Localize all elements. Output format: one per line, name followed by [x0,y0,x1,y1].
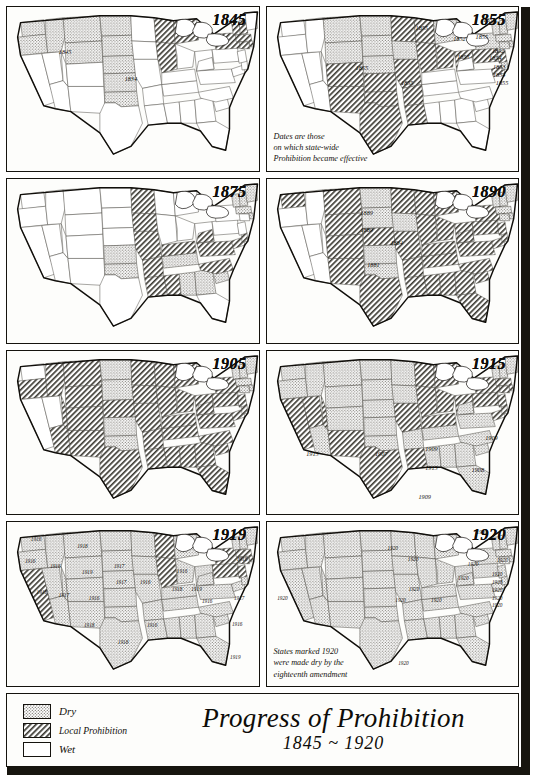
map-panel-1875[interactable]: 1875 [6,178,260,344]
legend-item-local-prohibition: Local Prohibition [23,721,185,740]
state-mt [323,359,362,386]
map-date-label: 1920 [492,587,503,593]
state-la [144,104,167,125]
map-panel-1890[interactable]: 1890 1889188918841881 [266,178,520,344]
state-sd [102,35,134,56]
map-date-label: 1920 [407,556,418,562]
map-date-label: 1916 [147,622,158,628]
state-nm [68,258,106,285]
map-date-label: 1889 [360,209,372,216]
state-ar [402,428,423,449]
map-body [277,355,517,497]
map-date-label: 1916 [237,556,248,562]
state-nj [237,565,247,579]
map-panel-1920[interactable]: 1920 19201920192019201920192019201920192… [266,521,520,687]
us-map-1875 [7,179,259,343]
map-panel-1919[interactable]: 1919 19161916191619181919191719181917191… [6,521,260,687]
state-nm [68,430,106,457]
legend-label-local-prohibition: Local Prohibition [59,725,127,736]
map-date-label: 1917 [59,592,70,598]
state-ia [132,384,158,402]
state-id [305,533,324,568]
map-panel-1905[interactable]: 1905 [6,350,260,516]
panel-year-1915: 1915 [472,355,506,373]
legend-title-bar: Dry Local Prohibition Wet Progress of Pr… [6,693,519,767]
us-map-1890: 1889188918841881 [267,179,519,343]
state-mt [323,16,362,43]
map-date-label: 1918 [118,639,129,645]
state-va [197,241,236,256]
map-panel-1855[interactable]: 1855 18551855185518511852185518521855185… [266,6,520,172]
map-date-label: 1917 [116,579,127,585]
state-co [326,406,364,430]
state-id [46,190,65,225]
state-mt [323,188,362,215]
state-fl [456,293,489,322]
state-id [46,361,65,396]
state-nj [237,221,247,235]
state-ks [363,73,396,92]
map-panel-1845[interactable]: 1845 18451834 [6,6,260,172]
state-mo [134,403,162,432]
state-mn [131,531,156,557]
state-sd [361,35,393,56]
state-al [439,100,456,123]
map-date-label: 1916 [31,536,42,542]
state-or [277,34,307,55]
state-al [179,100,196,123]
map-date-label: 1855 [401,79,413,86]
state-wi [154,190,175,216]
legend-label-dry: Dry [59,705,76,717]
panel-note-1920: States marked 1920 were made dry by the … [274,646,348,680]
state-sd [361,550,393,571]
map-date-label: 1920 [492,572,503,578]
map-body [18,184,258,326]
map-date-label: 1853 [492,63,504,70]
us-map-1905 [7,351,259,515]
map-panel-1915[interactable]: 1915 1915190719091915190919081909 [266,350,520,516]
map-date-label: 1855 [415,24,427,31]
state-nm [327,86,365,113]
map-date-label: 1845 [59,48,71,55]
state-ne [103,56,136,74]
state-ar [142,428,163,449]
state-ct [239,214,250,221]
legend-item-dry: Dry [23,702,185,721]
state-mo [393,403,421,432]
panel-year-1845: 1845 [213,11,247,29]
map-body [18,527,258,669]
state-ct [499,385,510,392]
map-date-label: 1884 [390,239,402,246]
state-ia [132,556,158,574]
state-nm [327,602,365,629]
state-ks [104,416,137,435]
state-fl [456,121,489,150]
state-fl [197,121,230,150]
state-tx [100,446,143,497]
map-date-label: 1920 [492,603,503,609]
state-mn [390,16,415,42]
state-in [435,387,454,412]
map-date-label: 1916 [25,558,36,564]
map-date-label: 1916 [232,621,243,627]
panel-note-1855: Dates are those on which state-wide Proh… [274,131,368,165]
state-fl [197,465,230,494]
state-ks [363,588,396,607]
state-ks [104,245,137,264]
legend-label-wet: Wet [59,743,75,755]
map-date-label: 1920 [467,561,478,567]
state-nm [327,258,365,285]
state-ar [142,85,163,106]
state-tx [359,275,402,326]
map-date-label: 1881 [367,261,379,268]
state-wi [154,18,175,44]
state-mt [63,16,102,43]
state-ct [239,385,250,392]
state-nm [68,86,106,113]
state-ar [402,85,423,106]
state-ia [391,213,417,231]
map-date-label: 1909 [418,493,430,500]
state-in [175,216,194,241]
map-date-label: 1917 [234,595,245,601]
state-ia [391,384,417,402]
